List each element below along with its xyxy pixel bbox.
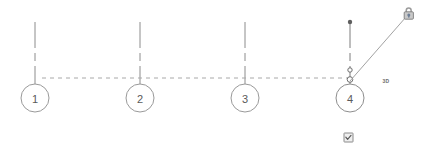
grid-bubble-4-label: 4 — [347, 93, 353, 105]
grid-endpoint-dot-icon[interactable] — [348, 20, 352, 24]
grid-line-3-group[interactable]: 3 — [231, 22, 259, 112]
2d-3d-extents-checkbox[interactable] — [344, 133, 353, 142]
grid-bubble-2-label: 2 — [137, 93, 143, 105]
grid-line-4-group[interactable]: 4 — [336, 20, 364, 112]
grid-bubble-1-label: 1 — [32, 93, 38, 105]
grid-line-1-group[interactable]: 1 — [21, 22, 49, 112]
grid-drag-handle-upper-icon[interactable] — [348, 68, 352, 72]
padlock-leader-line — [350, 17, 406, 81]
grid-elevation-drawing: 1 2 3 4 — [0, 0, 439, 151]
grid-bubble-3-label: 3 — [242, 93, 248, 105]
view-extent-tag-label: 3D — [383, 78, 390, 84]
padlock-icon[interactable] — [404, 7, 413, 19]
cad-drawing-canvas[interactable]: 1 2 3 4 — [0, 0, 439, 151]
grid-line-2-group[interactable]: 2 — [126, 22, 154, 112]
view-extent-tag[interactable]: 3D — [380, 76, 392, 85]
